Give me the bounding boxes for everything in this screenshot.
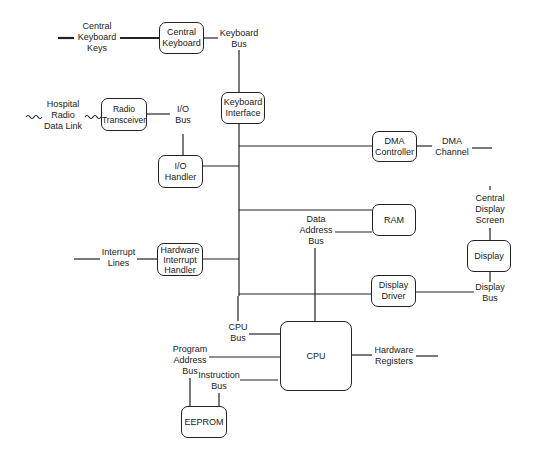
cpu-label: CPU xyxy=(306,351,325,362)
interrupt-lines-label: Interrupt Lines xyxy=(100,247,137,269)
display-bus-label: Display Bus xyxy=(474,282,506,304)
display-block: Display xyxy=(467,240,511,272)
eeprom-block: EEPROM xyxy=(181,406,227,438)
hardware-registers-label: Hardware Registers xyxy=(372,345,416,367)
display-label: Display xyxy=(474,251,504,262)
display-driver-label: Display Driver xyxy=(379,280,409,302)
central-keyboard-block: Central Keyboard xyxy=(159,22,204,54)
instruction-bus-label: Instruction Bus xyxy=(198,370,240,392)
ram-label: RAM xyxy=(384,215,404,226)
cpu-block: CPU xyxy=(280,321,352,391)
hardware-interrupt-handler-block: Hardware Interrupt Handler xyxy=(157,243,203,276)
central-keyboard-keys-label: Central Keyboard Keys xyxy=(74,21,120,54)
eeprom-label: EEPROM xyxy=(184,417,223,428)
data-address-bus-label: Data Address Bus xyxy=(298,214,334,247)
io-bus-label: I/O Bus xyxy=(172,104,194,126)
dma-controller-label: DMA Controller xyxy=(375,136,414,158)
radio-transceiver-block: Radio Transceiver xyxy=(101,98,147,131)
io-handler-label: I/O Handler xyxy=(165,161,197,183)
connection-wires xyxy=(0,0,533,463)
hospital-radio-data-link-label: Hospital Radio Data Link xyxy=(42,99,84,132)
hardware-interrupt-handler-label: Hardware Interrupt Handler xyxy=(160,245,199,275)
central-display-screen-label: Central Display Screen xyxy=(472,193,508,226)
display-driver-block: Display Driver xyxy=(371,275,416,307)
dma-controller-block: DMA Controller xyxy=(372,131,417,162)
keyboard-bus-label: Keyboard Bus xyxy=(217,28,261,50)
dma-channel-label: DMA Channel xyxy=(432,136,472,158)
keyboard-interface-label: Keyboard Interface xyxy=(224,97,263,119)
central-keyboard-label: Central Keyboard xyxy=(162,27,201,49)
ram-block: RAM xyxy=(372,204,416,236)
cpu-bus-label: CPU Bus xyxy=(226,322,250,344)
keyboard-interface-block: Keyboard Interface xyxy=(221,92,265,124)
io-handler-block: I/O Handler xyxy=(158,155,203,188)
radio-transceiver-label: Radio Transceiver xyxy=(102,104,146,126)
